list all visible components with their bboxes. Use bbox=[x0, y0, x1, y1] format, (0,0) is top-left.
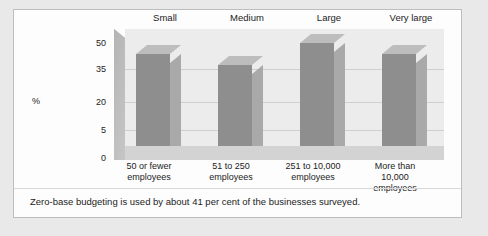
bar-large[interactable] bbox=[300, 43, 334, 146]
category-top-label-very-large: Very large bbox=[365, 12, 457, 23]
y-axis-tick-labels: 50 35 20 5 0 bbox=[60, 10, 106, 180]
category-top-label-large: Large bbox=[283, 12, 375, 23]
y-tick-35: 35 bbox=[66, 65, 106, 74]
bar-chart: % 50 35 20 5 0 bbox=[14, 10, 461, 180]
plot-left-wall-face bbox=[114, 29, 125, 160]
bar-front-face bbox=[136, 54, 170, 146]
figure-panel: % 50 35 20 5 0 bbox=[13, 9, 462, 218]
bar-front-face bbox=[382, 54, 416, 146]
y-axis-unit-label: % bbox=[32, 96, 40, 106]
x-label-very-large: More than 10,000 employees bbox=[347, 161, 443, 194]
bar-side-face bbox=[170, 54, 181, 146]
bar-front-face bbox=[300, 43, 334, 146]
category-top-label-small: Small bbox=[119, 12, 211, 23]
y-tick-20: 20 bbox=[66, 98, 106, 107]
x-label-very-large-line2: 10,000 bbox=[347, 172, 443, 183]
plot-area bbox=[114, 29, 444, 160]
bar-side-face bbox=[416, 54, 427, 146]
y-tick-5: 5 bbox=[66, 126, 106, 135]
bar-front-face bbox=[218, 65, 252, 146]
bar-medium[interactable] bbox=[218, 65, 252, 146]
bar-side-face bbox=[334, 43, 345, 146]
bar-very-large[interactable] bbox=[382, 54, 416, 146]
y-tick-0: 0 bbox=[66, 154, 106, 163]
y-tick-50: 50 bbox=[66, 39, 106, 48]
bar-side-face bbox=[252, 65, 263, 146]
plot-floor bbox=[114, 146, 444, 160]
x-label-very-large-line1: More than bbox=[347, 161, 443, 172]
plot-left-wall bbox=[114, 29, 125, 160]
bar-small[interactable] bbox=[136, 54, 170, 146]
caption-divider bbox=[14, 188, 461, 189]
category-top-label-medium: Medium bbox=[201, 12, 293, 23]
chart-caption: Zero-base budgeting is used by about 41 … bbox=[30, 196, 450, 207]
